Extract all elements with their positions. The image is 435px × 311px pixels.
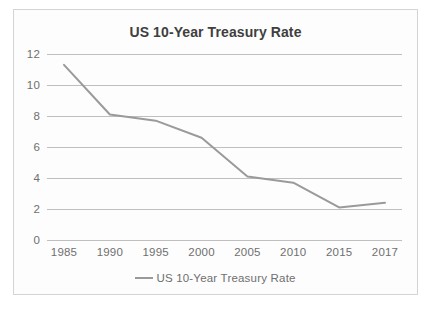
chart-card: US 10-Year Treasury Rate 024681012 19851…	[13, 9, 418, 295]
chart-legend: US 10-Year Treasury Rate	[14, 272, 417, 284]
y-axis-tick-label: 2	[33, 203, 40, 215]
gridline	[47, 240, 402, 241]
x-axis-tick-label: 2005	[234, 246, 260, 258]
data-line	[64, 65, 385, 208]
x-axis-tick-label: 1990	[97, 246, 123, 258]
y-axis-tick-label: 12	[27, 48, 40, 60]
x-axis: 19851990199520002005201020152017	[47, 246, 402, 266]
x-axis-tick-label: 1995	[143, 246, 169, 258]
x-axis-tick-label: 1985	[51, 246, 77, 258]
chart-title: US 10-Year Treasury Rate	[14, 24, 417, 40]
y-axis: 024681012	[14, 54, 44, 240]
legend-label: US 10-Year Treasury Rate	[156, 272, 295, 284]
plot-area	[47, 54, 402, 240]
line-series-us-10-year-treasury-rate	[47, 54, 402, 240]
y-axis-tick-label: 0	[33, 234, 40, 246]
y-axis-tick-label: 10	[27, 79, 40, 91]
x-axis-tick-label: 2017	[372, 246, 398, 258]
x-axis-tick-label: 2010	[280, 246, 306, 258]
x-axis-tick-label: 2015	[326, 246, 352, 258]
x-axis-tick-label: 2000	[188, 246, 214, 258]
legend-line-swatch-icon	[135, 277, 153, 279]
y-axis-tick-label: 4	[33, 172, 40, 184]
y-axis-tick-label: 6	[33, 141, 40, 153]
y-axis-tick-label: 8	[33, 110, 40, 122]
